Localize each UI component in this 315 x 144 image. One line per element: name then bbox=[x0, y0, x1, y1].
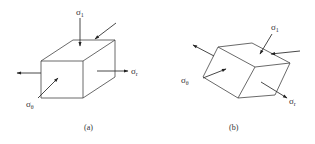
sigma1-label-b: σ1 bbox=[271, 22, 279, 33]
caption-a: (a) bbox=[84, 123, 93, 132]
left-upper-arrow-b bbox=[193, 45, 214, 56]
panel-a: σ1 σr σθ (a) bbox=[17, 7, 138, 132]
sigma-theta-label-a: σθ bbox=[26, 99, 34, 110]
stress-element-diagram: σ1 σr σθ (a) σ1 σr σθ (b) bbox=[0, 0, 315, 144]
cube-b bbox=[203, 43, 290, 98]
sigma-r-label-a: σr bbox=[131, 66, 138, 77]
diag-top-arrow-a bbox=[95, 23, 116, 39]
sigma1-arrow-b bbox=[260, 34, 272, 54]
panel-b: σ1 σr σθ (b) bbox=[181, 22, 300, 132]
sigma1-label-a: σ1 bbox=[76, 7, 84, 18]
cube-a bbox=[41, 40, 115, 98]
sigma-theta-label-b: σθ bbox=[181, 75, 189, 86]
sigma-r-label-b: σr bbox=[289, 96, 296, 107]
caption-b: (b) bbox=[229, 123, 239, 132]
right-top-arrow-b bbox=[271, 51, 300, 54]
